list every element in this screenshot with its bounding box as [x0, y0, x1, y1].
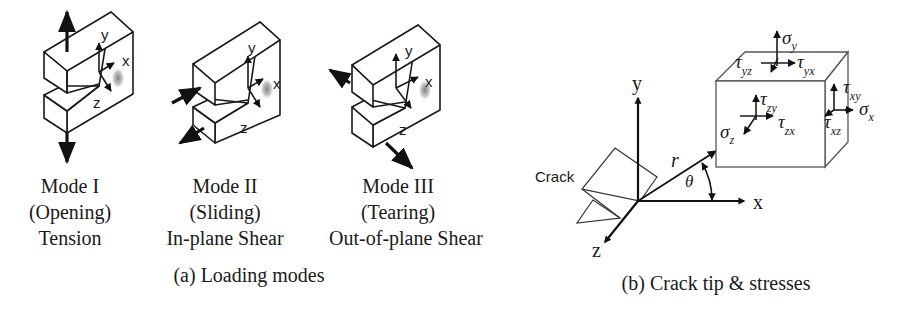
mode-labels: Mode I (Opening) Tension Mode II (Slidin… — [29, 175, 483, 287]
mode-3-diagram: y x z — [330, 25, 440, 168]
crack-lower-face — [577, 200, 620, 223]
radius-label: r — [671, 149, 679, 171]
mode-2-type: (Sliding) — [189, 201, 260, 224]
panel-a-caption: (a) Loading modes — [173, 264, 324, 287]
mode-3-axis-z: z — [399, 121, 407, 138]
mode-1-axis-y: y — [101, 26, 109, 43]
mode-3-name: Mode III — [362, 175, 434, 197]
mode-1-name: Mode I — [41, 175, 99, 197]
mode-2-axis-z: z — [240, 119, 248, 136]
z-axis — [605, 201, 638, 242]
mode-1-load: Tension — [38, 227, 101, 249]
mode-3-tearing-arrow-up — [330, 70, 350, 83]
mode-2-stress-zone — [260, 78, 274, 100]
mode-2-axis-x: x — [273, 75, 281, 92]
theta-label: θ — [685, 172, 693, 191]
mode-3-type: (Tearing) — [361, 201, 435, 224]
crack-tip-diagram: Crack y x z r θ σy τyz τyx τxy σx — [535, 27, 874, 295]
mode-3-axis-y: y — [405, 42, 413, 59]
mode-2-axis-y: y — [248, 39, 256, 56]
mode-2-diagram: y x z — [172, 22, 281, 143]
crack-label: Crack — [535, 168, 575, 185]
crack-plane — [582, 148, 657, 201]
mode-3-axis-x: x — [425, 73, 433, 90]
mode-1-type: (Opening) — [29, 201, 111, 224]
mode-3-tearing-arrow-down — [386, 143, 412, 168]
x-axis-label: x — [753, 191, 763, 213]
mode-1-stress-zone — [111, 67, 125, 89]
mode-3-load: Out-of-plane Shear — [329, 227, 483, 250]
mode-2-shear-arrow-out — [180, 128, 204, 143]
y-axis-label: y — [632, 72, 642, 95]
sigma-y-label: σy — [782, 27, 797, 53]
crack-loading-modes-figure: y x z y x z y x z — [0, 0, 900, 312]
mode-2-name: Mode II — [193, 175, 258, 197]
z-axis-label: z — [592, 239, 601, 261]
mode-2-load: In-plane Shear — [166, 227, 284, 250]
mode-1-diagram: y x z — [44, 12, 133, 162]
mode-1-axis-x: x — [122, 52, 130, 69]
mode-1-axis-z: z — [93, 94, 101, 111]
theta-arc — [702, 163, 712, 200]
mode-2-shear-arrow-in — [172, 88, 200, 103]
sigma-x-label: σx — [859, 98, 874, 124]
panel-b-caption: (b) Crack tip & stresses — [622, 272, 811, 295]
